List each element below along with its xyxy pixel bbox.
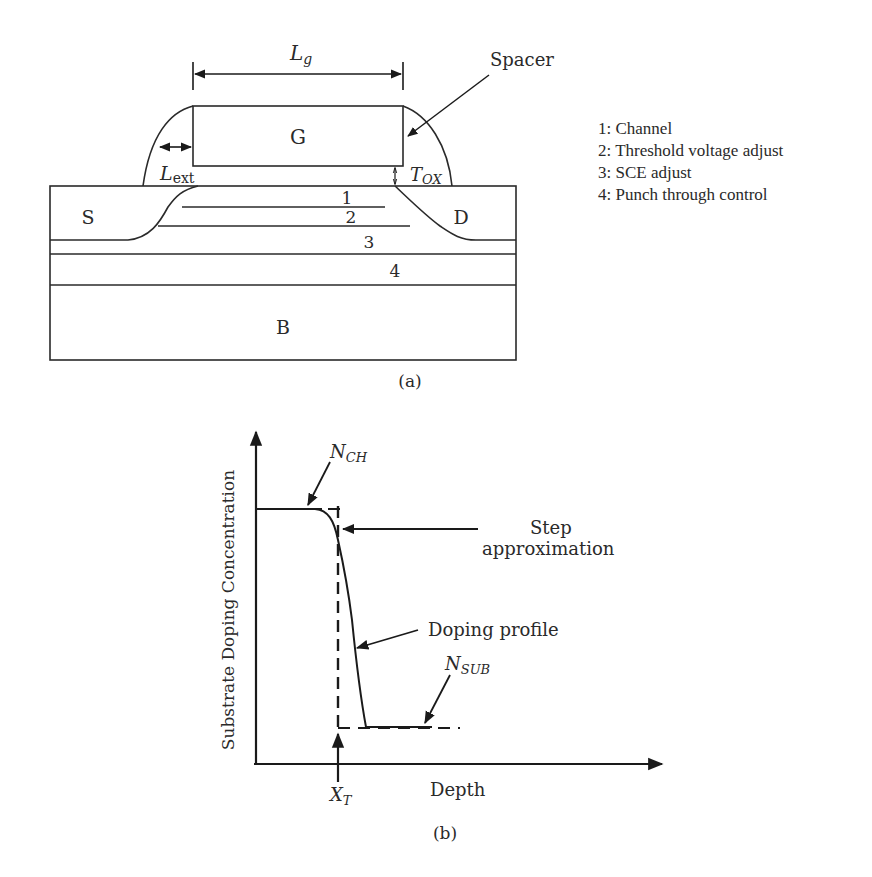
layer-legend: 1: Channel 2: Threshold voltage adjust 3…: [598, 118, 783, 206]
drain-label: D: [453, 206, 468, 228]
step-approx-label-1: Step: [530, 517, 572, 538]
layer-4-number: 4: [390, 261, 401, 281]
n-ch-arrow: [308, 462, 330, 505]
x-t-label: XT: [328, 784, 353, 808]
spacer-arrow: [408, 75, 489, 136]
oxide-thickness-label: TOX: [410, 164, 442, 187]
body-label: B: [276, 316, 290, 338]
layer-1-number: 1: [342, 188, 353, 208]
gate-length-dimension: [193, 62, 403, 90]
caption-a: (a): [398, 371, 421, 391]
doping-profile-curve: [256, 509, 432, 727]
legend-item-channel: 1: Channel: [598, 118, 783, 140]
caption-b: (b): [433, 823, 457, 843]
n-sub-label: NSUB: [444, 653, 490, 677]
n-sub-arrow: [425, 675, 450, 723]
layer-2-number: 2: [346, 207, 357, 227]
legend-item-sce-adjust: 3: SCE adjust: [598, 162, 783, 184]
spacer-label: Spacer: [490, 49, 554, 70]
gate-length-label: Lg: [289, 41, 312, 67]
step-approx-label-2: approximation: [482, 538, 615, 559]
n-ch-label: NCH: [329, 441, 368, 465]
source-junction: [50, 186, 198, 240]
x-axis-label: Depth: [430, 779, 486, 800]
extension-length-label: Lext: [159, 162, 195, 186]
legend-item-punch-through: 4: Punch through control: [598, 184, 783, 206]
doping-profile-plot: [254, 432, 662, 782]
layer-3-number: 3: [364, 232, 375, 252]
doping-profile-arrow: [357, 630, 418, 648]
legend-item-threshold-adjust: 2: Threshold voltage adjust: [598, 140, 783, 162]
gate-label: G: [290, 125, 306, 149]
y-axis-label: Substrate Doping Concentration: [218, 470, 238, 750]
doping-profile-label: Doping profile: [428, 619, 559, 640]
source-label: S: [81, 206, 94, 228]
